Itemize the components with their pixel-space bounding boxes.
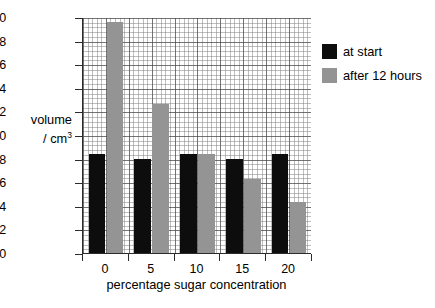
x-axis-tick-label: 20 xyxy=(281,263,295,276)
y-axis-tick-label: 18 xyxy=(0,35,6,48)
y-axis-label-unit-exponent: 3 xyxy=(67,130,72,140)
y-axis-tick-mark xyxy=(75,18,82,19)
y-axis-tick-label: 8 xyxy=(0,153,6,166)
y-axis-label-main: volume xyxy=(31,112,72,127)
bar-at-start xyxy=(134,159,151,253)
bars-layer xyxy=(83,18,311,253)
y-axis-tick-label: 20 xyxy=(0,12,6,25)
x-axis-label: percentage sugar concentration xyxy=(82,278,311,292)
bar-chart: 20181614121086420 volume / cm3 05101520 … xyxy=(0,0,435,308)
x-axis-tick-mark xyxy=(82,254,83,261)
bar-at-start xyxy=(180,154,197,253)
legend-label: at start xyxy=(343,45,382,59)
x-axis-tick-mark xyxy=(311,254,312,261)
bar-at-start xyxy=(89,154,106,253)
x-axis-tick-mark xyxy=(128,254,129,261)
x-axis-tick-mark xyxy=(174,254,175,261)
y-axis-tick-label: 4 xyxy=(0,201,6,214)
x-axis-tick-mark xyxy=(265,254,266,261)
bar-after-12-hours xyxy=(107,22,124,253)
y-axis-tick-label: 16 xyxy=(0,59,6,72)
legend-label: after 12 hours xyxy=(343,69,422,83)
black-swatch-icon xyxy=(322,44,337,59)
y-axis-label: volume / cm3 xyxy=(4,112,72,146)
y-axis-tick-mark xyxy=(75,207,82,208)
plot-area xyxy=(82,18,311,254)
bar-at-start xyxy=(272,154,289,253)
x-axis: 05101520 xyxy=(0,254,435,276)
y-axis-tick-mark xyxy=(75,230,82,231)
y-axis-tick-label: 6 xyxy=(0,177,6,190)
x-axis-tick-label: 10 xyxy=(190,263,204,276)
y-axis-tick-mark xyxy=(75,89,82,90)
legend-item-after-12-hours: after 12 hours xyxy=(322,68,422,83)
gray-swatch-icon xyxy=(322,68,337,83)
bar-after-12-hours xyxy=(152,104,169,253)
y-axis-tick-label: 2 xyxy=(0,224,6,237)
y-axis-tick-mark xyxy=(75,160,82,161)
y-axis-tick-mark xyxy=(75,183,82,184)
y-axis-tick-label: 14 xyxy=(0,83,6,96)
bar-after-12-hours xyxy=(198,154,215,253)
y-axis-tick-mark xyxy=(75,112,82,113)
legend-item-at-start: at start xyxy=(322,44,422,59)
y-axis-tick-mark xyxy=(75,136,82,137)
x-axis-tick-label: 0 xyxy=(101,263,108,276)
x-axis-tick-label: 15 xyxy=(235,263,249,276)
y-axis-tick-mark xyxy=(75,65,82,66)
bar-after-12-hours xyxy=(290,202,307,253)
x-axis-tick-label: 5 xyxy=(147,263,154,276)
x-axis-tick-mark xyxy=(219,254,220,261)
y-axis-label-unit: / cm xyxy=(43,131,67,146)
bar-at-start xyxy=(226,159,243,253)
bar-after-12-hours xyxy=(244,179,261,253)
chart-legend: at start after 12 hours xyxy=(322,44,422,92)
y-axis-tick-mark xyxy=(75,42,82,43)
